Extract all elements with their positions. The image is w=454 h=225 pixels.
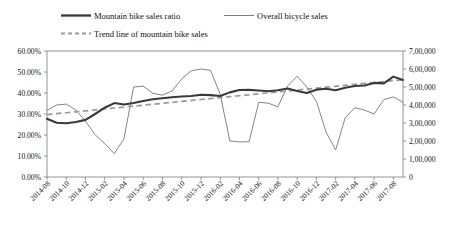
y-axis-left-tick-label: 0.00% <box>21 173 41 182</box>
chart-legend: Mountain bike sales ratio Overall bicycl… <box>61 11 328 39</box>
x-axis-tick-label: 2015-12 <box>182 179 206 203</box>
y-axis-left-tick-label: 60.00% <box>18 47 42 56</box>
x-axis-tick-label: 2017-08 <box>375 179 399 203</box>
x-axis-tick-label: 2016-04 <box>221 179 245 203</box>
x-axis-tick-label: 2015-02 <box>86 179 110 203</box>
y-axis-right-tick-label: 6,00,000 <box>409 65 436 74</box>
x-axis-tick-label: 2017-06 <box>355 179 379 203</box>
x-axis-tick-label: 2016-02 <box>201 179 225 203</box>
y-axis-left-tick-label: 20.00% <box>18 131 42 140</box>
x-axis-tick-label: 2016-12 <box>298 179 322 203</box>
x-axis-tick-label: 2017-02 <box>317 179 341 203</box>
x-axis-tick-label: 2015-06 <box>124 179 148 203</box>
legend-label-trend-line: Trend line of mountain bike sales <box>94 29 208 39</box>
y-axis-left-tick-label: 50.00% <box>18 68 42 77</box>
x-axis: 2014-082014-102014-122015-022015-042015-… <box>28 177 398 203</box>
y-axis-right-tick-label: 2,00,000 <box>409 137 436 146</box>
y-axis-right-tick-label: 5,00,000 <box>409 83 436 92</box>
plot-frame <box>47 51 403 177</box>
x-axis-tick-label: 2016-10 <box>278 179 302 203</box>
y-axis-left: 0.00%10.00%20.00%30.00%40.00%50.00%60.00… <box>18 47 47 182</box>
x-axis-tick-label: 2014-08 <box>28 179 52 203</box>
x-axis-tick-label: 2015-10 <box>163 179 187 203</box>
x-axis-tick-label: 2017-04 <box>336 179 360 203</box>
line-chart: Mountain bike sales ratio Overall bicycl… <box>0 0 454 225</box>
y-axis-right-tick-label: 7,00,000 <box>409 47 436 56</box>
chart-series-group <box>47 69 403 154</box>
y-axis-right: 01,00,0002,00,0003,00,0004,00,0005,00,00… <box>403 47 436 182</box>
legend-label-mountain-bike-sales-ratio: Mountain bike sales ratio <box>94 11 180 21</box>
y-axis-left-tick-label: 40.00% <box>18 89 42 98</box>
x-axis-tick-label: 2014-10 <box>47 179 71 203</box>
x-axis-tick-label: 2015-04 <box>105 179 129 203</box>
y-axis-left-tick-label: 10.00% <box>18 152 42 161</box>
y-axis-right-tick-label: 4,00,000 <box>409 101 436 110</box>
x-axis-tick-label: 2016-08 <box>259 179 283 203</box>
y-axis-left-tick-label: 30.00% <box>18 110 42 119</box>
x-axis-tick-label: 2015-08 <box>144 179 168 203</box>
chart-container: Mountain bike sales ratio Overall bicycl… <box>0 0 454 225</box>
y-axis-right-tick-label: 1,00,000 <box>409 155 436 164</box>
y-axis-right-tick-label: 3,00,000 <box>409 119 436 128</box>
x-axis-tick-label: 2016-06 <box>240 179 264 203</box>
legend-label-overall-bicycle-sales: Overall bicycle sales <box>257 11 328 21</box>
y-axis-right-tick-label: 0 <box>409 173 413 182</box>
x-axis-tick-label: 2014-12 <box>67 179 91 203</box>
